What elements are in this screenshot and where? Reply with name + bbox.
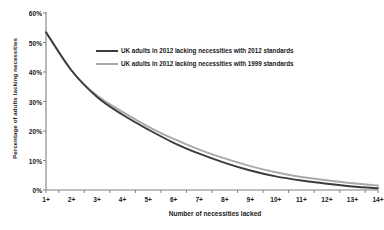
plot-area	[0, 0, 384, 230]
legend-item: UK adults in 2012 lacking necessities wi…	[96, 57, 366, 70]
legend-color-swatch	[96, 63, 118, 65]
legend-color-swatch	[96, 50, 118, 52]
chart-legend: UK adults in 2012 lacking necessities wi…	[96, 44, 366, 70]
legend-item: UK adults in 2012 lacking necessities wi…	[96, 44, 366, 57]
chart-container: Percentage of adults lacking necessities…	[0, 0, 384, 230]
legend-label: UK adults in 2012 lacking necessities wi…	[121, 60, 293, 67]
legend-label: UK adults in 2012 lacking necessities wi…	[121, 47, 293, 54]
